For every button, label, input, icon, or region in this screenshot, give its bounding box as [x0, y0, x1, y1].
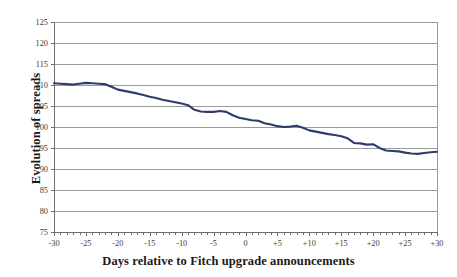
y-tick-label-90: 90	[40, 165, 48, 174]
y-tick-label-85: 85	[40, 186, 48, 195]
y-tick-label-125: 125	[36, 18, 48, 27]
x-tick-label-0: 0	[243, 239, 247, 248]
x-tick-label-+25: +25	[399, 239, 412, 248]
plot-canvas: 7580859095100105110115120125 -30-25-20-1…	[0, 0, 457, 277]
x-tick-label--5: -5	[210, 239, 217, 248]
x-tick-label-+30: +30	[431, 239, 444, 248]
x-tick-label-+10: +10	[303, 239, 316, 248]
x-tick-label--20: -20	[112, 239, 123, 248]
x-tick-label--15: -15	[144, 239, 155, 248]
series-line-0	[54, 83, 437, 154]
x-tick-label-+5: +5	[273, 239, 282, 248]
y-tick-label-80: 80	[40, 207, 48, 216]
y-tick-labels: 7580859095100105110115120125	[36, 18, 48, 237]
spread-evolution-chart: Evolution of spreads 7580859095100105110…	[0, 0, 457, 277]
y-tick-label-95: 95	[40, 144, 48, 153]
x-tick-marks	[55, 232, 438, 236]
y-tick-label-100: 100	[36, 123, 48, 132]
x-tick-label--25: -25	[80, 239, 91, 248]
y-tick-label-120: 120	[36, 39, 48, 48]
y-tick-label-75: 75	[40, 228, 48, 237]
y-tick-label-110: 110	[36, 81, 48, 90]
gridlines	[54, 23, 437, 212]
y-tick-label-105: 105	[36, 102, 48, 111]
y-tick-label-115: 115	[36, 60, 48, 69]
x-tick-label--30: -30	[48, 239, 59, 248]
x-tick-label-+20: +20	[367, 239, 380, 248]
data-series	[54, 83, 437, 154]
x-tick-label--10: -10	[176, 239, 187, 248]
x-tick-labels: -30-25-20-15-10-50+5+10+15+20+25+30	[48, 239, 443, 248]
x-axis-title: Days relative to Fitch upgrade announcem…	[0, 254, 457, 269]
x-tick-label-+15: +15	[335, 239, 348, 248]
